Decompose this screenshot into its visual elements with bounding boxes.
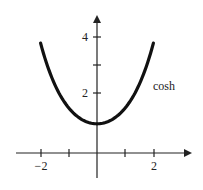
chart-canvas: −2 2 4 2 cosh	[0, 0, 203, 190]
y-tick-label-4: 4	[82, 30, 88, 44]
x-tick-label-2: 2	[151, 159, 157, 173]
curve-label: cosh	[153, 79, 175, 93]
x-tick-label-neg2: −2	[35, 159, 48, 173]
y-tick-label-2: 2	[82, 86, 88, 100]
